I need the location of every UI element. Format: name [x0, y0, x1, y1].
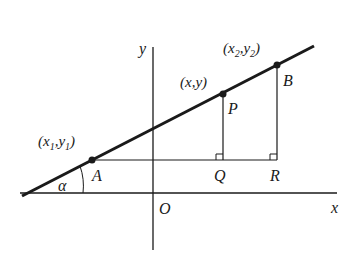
x-axis-label: x — [330, 199, 338, 216]
point-A-label: A — [91, 167, 102, 184]
point-A-coordinates: (x1,y1) — [38, 133, 75, 152]
point-P-label: P — [227, 100, 238, 117]
right-angle-mark-Q — [216, 154, 223, 160]
point-Q-label: Q — [214, 167, 226, 184]
line-through-two-points-diagram: y x O α A P B Q R (x1,y1) (x,y) (x2,y2) — [0, 0, 348, 269]
point-A — [89, 157, 96, 164]
point-P — [220, 91, 227, 98]
point-P-coordinates: (x,y) — [180, 74, 207, 91]
right-angle-mark-R — [270, 154, 277, 160]
point-B-coordinates: (x2,y2) — [223, 40, 260, 59]
angle-alpha-arc — [80, 166, 83, 193]
angle-alpha-label: α — [58, 177, 67, 194]
point-B — [274, 62, 281, 69]
y-axis-label: y — [137, 40, 147, 58]
point-B-label: B — [283, 72, 293, 89]
point-R-label: R — [269, 167, 280, 184]
origin-label: O — [159, 200, 171, 217]
